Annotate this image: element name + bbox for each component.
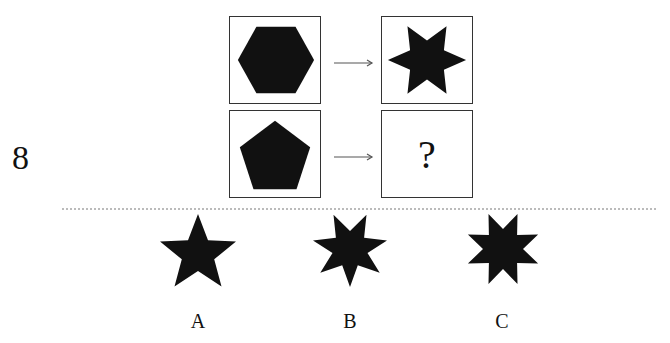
grid-cell-six-point-star bbox=[381, 16, 473, 104]
grid-cell-unknown: ? bbox=[381, 110, 473, 198]
option-a-label[interactable]: A bbox=[178, 309, 218, 333]
five-point-star-icon bbox=[153, 206, 243, 296]
option-c-shape[interactable] bbox=[458, 205, 548, 295]
grid-cell-pentagon bbox=[229, 110, 321, 198]
question-mark: ? bbox=[382, 111, 472, 197]
eight-point-star-icon bbox=[458, 205, 548, 295]
pentagon-icon bbox=[230, 111, 320, 197]
option-b-shape[interactable] bbox=[305, 205, 395, 295]
right-arrow-icon bbox=[334, 58, 374, 68]
seven-point-star-icon bbox=[305, 205, 395, 295]
grid-cell-hexagon bbox=[229, 16, 321, 104]
six-point-star-icon bbox=[382, 17, 472, 103]
puzzle-page: 8 ? A B C bbox=[0, 0, 670, 343]
option-b-label[interactable]: B bbox=[330, 309, 370, 333]
option-a-shape[interactable] bbox=[153, 206, 243, 296]
right-arrow-icon bbox=[334, 152, 374, 162]
option-c-label[interactable]: C bbox=[482, 309, 522, 333]
question-number: 8 bbox=[12, 138, 29, 178]
hexagon-icon bbox=[230, 17, 320, 103]
